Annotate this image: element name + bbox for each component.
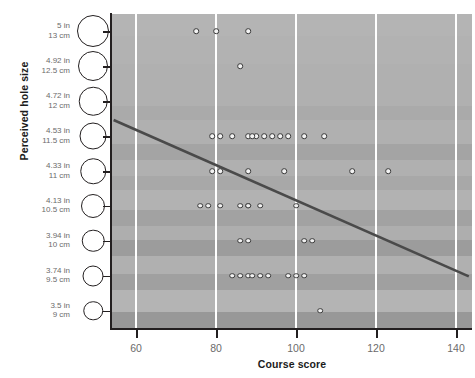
- hole-size-circle-10cm: [82, 230, 105, 253]
- hole-size-circle-9cm: [83, 301, 103, 321]
- y-tick-label-inches: 3.94 in: [46, 231, 70, 240]
- y-tick-label-inches: 4.72 in: [46, 91, 70, 100]
- y-tick-label-inches: 3.5 in: [50, 301, 70, 310]
- y-tick-label-cm: 9 cm: [10, 310, 70, 320]
- trendline: [112, 14, 472, 328]
- x-tick-label-120: 120: [356, 342, 396, 354]
- x-axis-line: [110, 328, 472, 330]
- y-tick-label-cm: 13 cm: [10, 31, 70, 41]
- y-tick-label-inches: 4.33 in: [46, 161, 70, 170]
- y-tick-label-cm: 10.5 cm: [10, 205, 70, 215]
- y-tick-label-inches: 4.92 in: [46, 56, 70, 65]
- y-tick-label-125cm: 4.92 in12.5 cm: [10, 56, 70, 75]
- y-tick-label-115cm: 4.53 in11.5 cm: [10, 126, 70, 145]
- y-axis-tick: [103, 136, 111, 138]
- y-tick-label-cm: 12 cm: [10, 101, 70, 111]
- y-tick-label-cm: 12.5 cm: [10, 66, 70, 76]
- y-axis-tick-labels: 5 in13 cm4.92 in12.5 cm4.72 in12 cm4.53 …: [14, 0, 70, 340]
- y-tick-label-11cm: 4.33 in11 cm: [10, 161, 70, 180]
- y-axis-tick: [103, 171, 111, 173]
- y-tick-label-105cm: 4.13 in10.5 cm: [10, 196, 70, 215]
- y-tick-label-inches: 3.74 in: [46, 266, 70, 275]
- y-axis-tick: [103, 206, 111, 208]
- y-tick-label-inches: 4.53 in: [46, 126, 70, 135]
- hole-size-circle-95cm: [83, 265, 104, 286]
- y-axis-tick: [103, 101, 111, 103]
- scatter-chart: Perceived hole size 5 in13 cm4.92 in12.5…: [0, 0, 475, 378]
- hole-size-circle-11cm: [80, 158, 106, 184]
- y-axis-tick: [103, 31, 111, 33]
- y-axis-tick: [103, 241, 111, 243]
- hole-size-circle-105cm: [81, 194, 105, 218]
- x-axis-tick: [376, 330, 378, 338]
- x-axis-tick: [216, 330, 218, 338]
- x-tick-label-80: 80: [196, 342, 236, 354]
- x-tick-label-140: 140: [436, 342, 475, 354]
- y-tick-label-inches: 4.13 in: [46, 196, 70, 205]
- x-tick-label-100: 100: [276, 342, 316, 354]
- y-tick-label-12cm: 4.72 in12 cm: [10, 91, 70, 110]
- y-tick-label-inches: 5 in: [57, 21, 70, 30]
- x-axis-tick: [136, 330, 138, 338]
- y-tick-label-cm: 10 cm: [10, 240, 70, 250]
- x-axis-title: Course score: [112, 358, 472, 370]
- y-tick-label-9cm: 3.5 in9 cm: [10, 301, 70, 320]
- x-axis-tick: [296, 330, 298, 338]
- y-tick-label-cm: 11 cm: [10, 171, 70, 181]
- y-tick-label-cm: 9.5 cm: [10, 275, 70, 285]
- hole-size-circles: [72, 0, 114, 340]
- y-axis-tick: [103, 311, 111, 313]
- y-axis-tick: [103, 66, 111, 68]
- y-axis-tick: [103, 276, 111, 278]
- y-tick-label-cm: 11.5 cm: [10, 136, 70, 146]
- plot-area: [112, 14, 472, 328]
- y-tick-label-13cm: 5 in13 cm: [10, 21, 70, 40]
- x-tick-label-60: 60: [116, 342, 156, 354]
- y-tick-label-95cm: 3.74 in9.5 cm: [10, 266, 70, 285]
- y-tick-label-10cm: 3.94 in10 cm: [10, 231, 70, 250]
- x-axis-tick: [456, 330, 458, 338]
